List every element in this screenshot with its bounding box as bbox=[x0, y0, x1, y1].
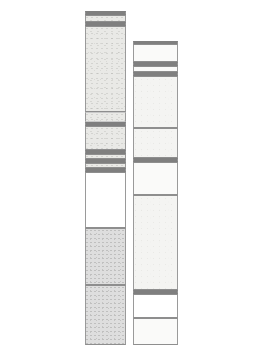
bed-l-02 bbox=[85, 15, 126, 22]
bed-r-09 bbox=[133, 162, 178, 195]
bed-l-14 bbox=[85, 228, 126, 285]
bed-r-13 bbox=[133, 318, 178, 345]
bed-l-07 bbox=[85, 126, 126, 150]
column-left bbox=[85, 11, 126, 345]
bed-l-13 bbox=[85, 172, 126, 228]
bed-r-10 bbox=[133, 195, 178, 290]
bed-r-02 bbox=[133, 44, 178, 62]
bed-l-05 bbox=[85, 112, 126, 122]
column-right bbox=[133, 41, 178, 345]
bed-r-07 bbox=[133, 128, 178, 158]
bed-l-15 bbox=[85, 285, 126, 345]
bed-r-12 bbox=[133, 294, 178, 318]
figure-canvas bbox=[0, 0, 253, 364]
bed-r-06 bbox=[133, 76, 178, 128]
bed-l-04 bbox=[85, 26, 126, 112]
